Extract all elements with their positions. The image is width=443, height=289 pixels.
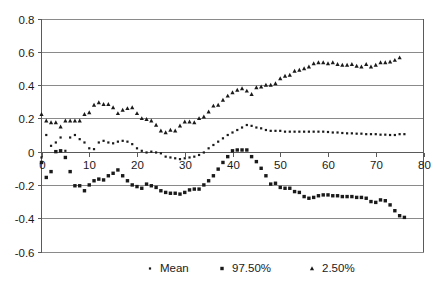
data-point bbox=[212, 144, 214, 146]
data-point bbox=[164, 191, 167, 194]
data-point bbox=[293, 190, 296, 193]
data-point bbox=[389, 134, 391, 136]
data-point bbox=[360, 133, 362, 135]
data-point bbox=[231, 149, 234, 152]
data-point bbox=[260, 127, 262, 129]
data-point bbox=[270, 130, 272, 132]
data-point bbox=[198, 154, 200, 156]
chart-background bbox=[0, 0, 443, 289]
data-point bbox=[102, 140, 104, 142]
data-point bbox=[107, 141, 109, 143]
data-point bbox=[303, 131, 305, 133]
data-point bbox=[131, 183, 134, 186]
data-point bbox=[217, 141, 219, 143]
legend-label: 2.50% bbox=[322, 262, 355, 274]
data-point bbox=[374, 201, 377, 204]
data-point bbox=[141, 150, 143, 152]
data-point bbox=[150, 151, 152, 153]
data-point bbox=[45, 176, 48, 179]
data-point bbox=[126, 179, 129, 182]
data-point bbox=[231, 131, 233, 133]
data-point bbox=[159, 189, 162, 192]
data-point bbox=[54, 150, 57, 153]
data-point bbox=[74, 134, 76, 136]
data-point bbox=[93, 148, 95, 150]
data-point bbox=[136, 147, 138, 149]
x-tick-label: 20 bbox=[131, 159, 144, 171]
data-point bbox=[289, 131, 291, 133]
data-point bbox=[341, 132, 343, 134]
data-point bbox=[240, 148, 243, 151]
data-point bbox=[169, 156, 171, 158]
data-point bbox=[50, 145, 52, 147]
data-point bbox=[293, 131, 295, 133]
y-tick-label: -0.6 bbox=[15, 247, 35, 259]
data-point bbox=[313, 131, 315, 133]
data-point bbox=[145, 151, 147, 153]
data-point bbox=[336, 131, 338, 133]
data-point bbox=[212, 174, 215, 177]
data-point bbox=[264, 174, 267, 177]
data-point bbox=[360, 196, 363, 199]
x-tick-label: 40 bbox=[227, 159, 240, 171]
y-tick-label: 0.4 bbox=[19, 80, 36, 92]
scatter-chart: 0.80.60.40.20-0.2-0.4-0.6 01020304050607… bbox=[0, 0, 443, 289]
data-point bbox=[178, 192, 181, 195]
data-point bbox=[365, 133, 367, 135]
data-point bbox=[302, 195, 305, 198]
data-point bbox=[64, 156, 67, 159]
data-point bbox=[203, 151, 205, 153]
data-point bbox=[384, 199, 387, 202]
data-point bbox=[193, 187, 196, 190]
data-point bbox=[356, 133, 358, 135]
data-point bbox=[102, 178, 105, 181]
y-tick-label: -0.2 bbox=[15, 180, 35, 192]
data-point bbox=[327, 131, 329, 133]
data-point bbox=[55, 141, 57, 143]
data-point bbox=[298, 191, 301, 194]
data-point bbox=[379, 134, 381, 136]
data-point bbox=[40, 161, 43, 164]
data-point bbox=[131, 143, 133, 145]
x-tick-label: 70 bbox=[370, 159, 383, 171]
data-point bbox=[370, 133, 372, 135]
data-point bbox=[403, 216, 406, 219]
y-tick-label: 0 bbox=[28, 147, 34, 159]
data-point bbox=[345, 195, 348, 198]
data-point bbox=[135, 185, 138, 188]
data-point bbox=[274, 182, 277, 185]
data-point bbox=[202, 183, 205, 186]
data-point bbox=[64, 150, 66, 152]
data-point bbox=[188, 188, 191, 191]
x-tick-label: 80 bbox=[418, 159, 431, 171]
data-point bbox=[236, 148, 239, 151]
data-point bbox=[208, 147, 210, 149]
data-point bbox=[350, 195, 353, 198]
data-point bbox=[140, 187, 143, 190]
data-point bbox=[317, 194, 320, 197]
data-point bbox=[394, 134, 396, 136]
data-point bbox=[49, 170, 52, 173]
data-point bbox=[155, 151, 157, 153]
data-point bbox=[245, 148, 248, 151]
data-point bbox=[384, 134, 386, 136]
data-point bbox=[145, 182, 148, 185]
x-tick-label: 0 bbox=[39, 159, 45, 171]
data-point bbox=[322, 131, 324, 133]
data-point bbox=[375, 133, 377, 135]
data-point bbox=[107, 174, 110, 177]
data-point bbox=[40, 156, 42, 158]
data-point bbox=[112, 142, 114, 144]
data-point bbox=[116, 168, 119, 171]
data-point bbox=[174, 192, 177, 195]
data-point bbox=[179, 158, 181, 160]
data-point bbox=[160, 152, 162, 154]
data-point bbox=[393, 209, 396, 212]
data-point bbox=[174, 157, 176, 159]
y-tick-label: 0.2 bbox=[19, 113, 35, 125]
data-point bbox=[398, 214, 401, 217]
data-point bbox=[188, 156, 190, 158]
data-point bbox=[126, 141, 128, 143]
data-point bbox=[184, 157, 186, 159]
y-tick-label: 0.8 bbox=[19, 14, 35, 26]
